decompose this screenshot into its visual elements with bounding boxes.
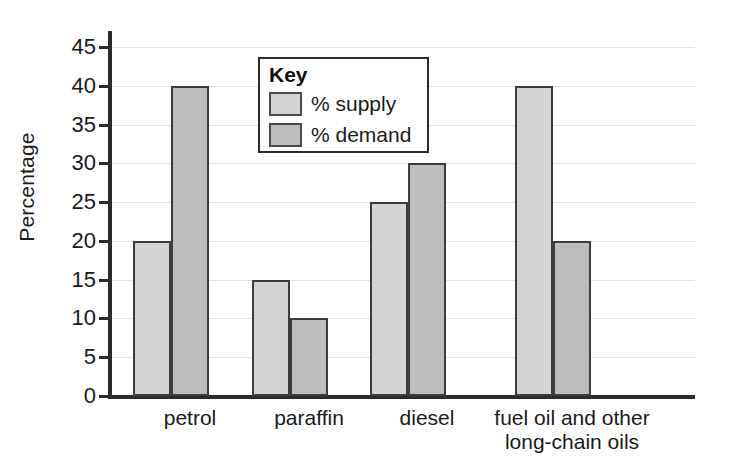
legend-swatch-demand-icon: [269, 123, 302, 147]
legend-row-demand: % demand: [269, 119, 427, 150]
y-axis-tick-label: 45: [42, 36, 96, 58]
legend-title: Key: [269, 64, 427, 86]
x-axis-category-label: fuel oil and otherlong-chain oils: [457, 406, 687, 454]
bar-demand: [290, 318, 328, 396]
y-axis-tick-label: 35: [42, 114, 96, 136]
legend-key-box: Key % supply % demand: [258, 57, 429, 153]
bar-chart: Percentage 051015202530354045 petrolpara…: [0, 0, 748, 473]
legend-swatch-supply-icon: [269, 92, 302, 116]
bar-supply: [133, 241, 171, 396]
y-axis-tick-label: 0: [42, 385, 96, 407]
y-axis-tick-label: 5: [42, 346, 96, 368]
y-axis-tick-label: 40: [42, 75, 96, 97]
y-axis-tick-label: 25: [42, 191, 96, 213]
y-axis-title: Percentage: [15, 87, 39, 287]
y-axis-tick-label: 30: [42, 152, 96, 174]
legend-row-supply: % supply: [269, 88, 427, 119]
bar-supply: [515, 86, 553, 396]
bar-demand: [553, 241, 591, 396]
bar-supply: [252, 280, 290, 396]
bar-supply: [370, 202, 408, 396]
y-axis-tick-label: 15: [42, 269, 96, 291]
category-label-line2: long-chain oils: [457, 430, 687, 454]
bar-demand: [408, 163, 446, 396]
legend-label-supply: % supply: [311, 93, 396, 114]
legend-label-demand: % demand: [311, 124, 411, 145]
bar-demand: [171, 86, 209, 396]
y-axis-tick-label: 10: [42, 307, 96, 329]
category-label-line1: fuel oil and other: [457, 406, 687, 430]
y-axis-tick-label: 20: [42, 230, 96, 252]
